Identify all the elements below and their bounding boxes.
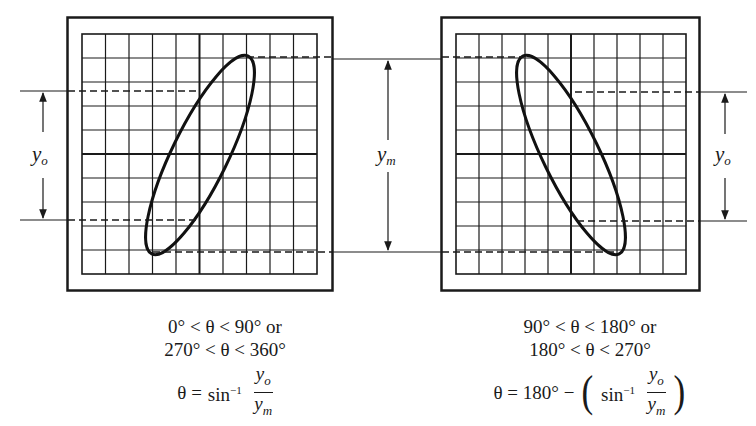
right-oscilloscope-panel: yo (442, 18, 748, 291)
open-paren: ( (582, 370, 594, 414)
right-caption: 90° < θ < 180° or 180° < θ < 270° θ = 18… (455, 315, 725, 422)
left-caption: 0° < θ < 90° or 270° < θ < 360° θ = sin−… (110, 315, 340, 422)
left-yo-label: yo (30, 142, 48, 168)
left-formula: θ = sin−1 yo ym (177, 363, 272, 422)
left-formula-lhs: θ = (177, 381, 202, 404)
right-range-line-1: 90° < θ < 180° or (455, 315, 725, 338)
left-formula-fn: sin−1 (208, 379, 242, 406)
left-graticule-grid (82, 34, 317, 274)
right-formula-lhs: θ = 180° − (493, 381, 574, 404)
right-graticule-grid (456, 34, 686, 274)
left-range-line-2: 270° < θ < 360° (110, 338, 340, 361)
left-oscilloscope-panel: yo (20, 18, 333, 291)
close-paren: ) (673, 370, 685, 414)
right-yo-label: yo (713, 142, 731, 168)
right-range-line-2: 180° < θ < 270° (455, 338, 725, 361)
right-formula: θ = 180° − ( sin−1 yo ym ) (493, 363, 686, 422)
left-formula-fraction: yo ym (254, 363, 273, 422)
ym-label: ym (375, 142, 396, 168)
right-formula-fraction: yo ym (647, 363, 666, 422)
right-formula-fn: sin−1 (601, 379, 635, 406)
left-range-line-1: 0° < θ < 90° or (110, 315, 340, 338)
